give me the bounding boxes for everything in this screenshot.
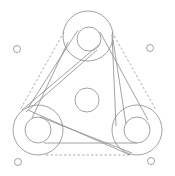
- bottom-right-pulley-outer: [112, 105, 162, 155]
- belt-top-right-a: [100, 32, 148, 120]
- hole-bottom-right: [148, 158, 155, 165]
- hole-top-left: [14, 46, 21, 53]
- bottom-right-pulley-inner: [124, 117, 150, 143]
- hole-bottom-left: [15, 159, 22, 166]
- hole-top-right: [147, 45, 154, 52]
- belt-top-left-b: [22, 44, 100, 110]
- belt-bottom-a: [40, 117, 132, 153]
- bottom-left-pulley-inner: [25, 117, 51, 143]
- bottom-left-pulley-outer: [13, 105, 63, 155]
- belt-bottom-b: [28, 110, 130, 155]
- pulley-diagram: [0, 0, 175, 176]
- top-pulley-inner: [77, 27, 101, 51]
- center-idler: [75, 88, 99, 112]
- envelope-right-edge: [112, 32, 156, 110]
- top-pulley-outer: [63, 11, 113, 61]
